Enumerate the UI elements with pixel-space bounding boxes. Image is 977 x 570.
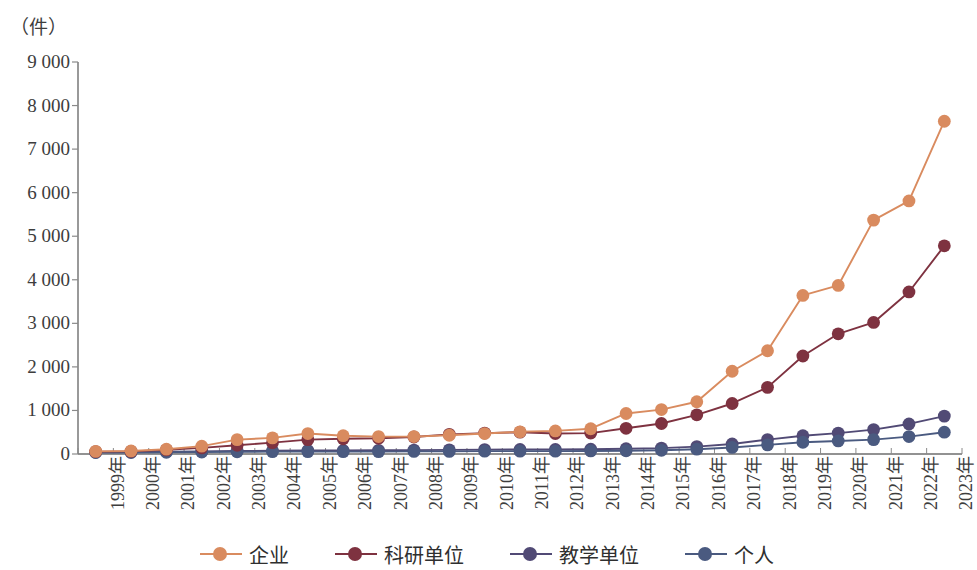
x-axis-tick-2017年: 2017年 xyxy=(739,456,765,510)
data-point xyxy=(867,316,880,329)
y-axis-tick-2000: 2 000 xyxy=(6,356,70,378)
data-point xyxy=(726,365,739,378)
y-axis-tick-6000: 6 000 xyxy=(6,182,70,204)
series-科研单位 xyxy=(89,239,950,458)
x-axis-tick-2005年: 2005年 xyxy=(315,456,341,510)
data-point xyxy=(903,195,916,208)
legend-item-科研单位[interactable]: 科研单位 xyxy=(335,540,464,569)
data-point xyxy=(514,425,527,438)
data-point xyxy=(620,407,633,420)
plot-svg xyxy=(78,62,962,454)
x-axis-tick-2016年: 2016年 xyxy=(704,456,730,510)
data-point xyxy=(796,289,809,302)
data-point xyxy=(903,286,916,299)
legend-marker-dot-icon xyxy=(213,547,227,561)
legend-swatch-icon xyxy=(200,546,242,562)
data-point xyxy=(160,443,173,456)
data-point xyxy=(690,443,703,456)
data-point xyxy=(443,429,456,442)
legend-label: 企业 xyxy=(249,540,289,569)
data-point xyxy=(761,344,774,357)
x-axis-tick-2022年: 2022年 xyxy=(916,456,942,510)
data-point xyxy=(478,427,491,440)
legend-swatch-icon xyxy=(685,546,727,562)
data-point xyxy=(726,441,739,454)
plot-area xyxy=(78,62,962,454)
legend-item-教学单位[interactable]: 教学单位 xyxy=(510,540,639,569)
data-point xyxy=(903,430,916,443)
x-axis-tick-2003年: 2003年 xyxy=(244,456,270,510)
x-axis-tick-labels: 1999年2000年2001年2002年2003年2004年2005年2006年… xyxy=(78,456,962,542)
x-axis-tick-2014年: 2014年 xyxy=(633,456,659,510)
legend-item-企业[interactable]: 企业 xyxy=(200,540,289,569)
y-axis-tick-0: 0 xyxy=(6,443,70,465)
data-point xyxy=(655,417,668,430)
series-企业 xyxy=(89,115,950,458)
x-axis-tick-2002年: 2002年 xyxy=(209,456,235,510)
legend-marker-dot-icon xyxy=(698,547,712,561)
legend-marker-dot-icon xyxy=(348,547,362,561)
data-point xyxy=(690,408,703,421)
y-axis-tick-1000: 1 000 xyxy=(6,399,70,421)
x-axis-tick-2008年: 2008年 xyxy=(421,456,447,510)
data-point xyxy=(231,433,244,446)
x-axis-tick-2012年: 2012年 xyxy=(562,456,588,510)
x-axis-tick-2021年: 2021年 xyxy=(881,456,907,510)
data-point xyxy=(195,440,208,453)
data-point xyxy=(938,410,951,423)
x-axis-tick-2000年: 2000年 xyxy=(138,456,164,510)
data-point xyxy=(301,427,314,440)
data-point xyxy=(584,422,597,435)
legend-label: 个人 xyxy=(734,540,774,569)
x-axis-tick-2018年: 2018年 xyxy=(775,456,801,510)
data-point xyxy=(655,444,668,457)
legend-label: 教学单位 xyxy=(559,540,639,569)
legend-swatch-icon xyxy=(335,546,377,562)
x-axis-tick-2020年: 2020年 xyxy=(845,456,871,510)
data-point xyxy=(761,438,774,451)
y-axis-tick-4000: 4 000 xyxy=(6,269,70,291)
data-point xyxy=(337,429,350,442)
series-line-企业 xyxy=(96,121,945,451)
x-axis-tick-2007年: 2007年 xyxy=(386,456,412,510)
data-point xyxy=(620,422,633,435)
x-axis-tick-2011年: 2011年 xyxy=(527,456,553,509)
chart-legend: 企业科研单位教学单位个人 xyxy=(0,538,974,570)
data-point xyxy=(832,435,845,448)
y-axis-tick-labels: 01 0002 0003 0004 0005 0006 0007 0008 00… xyxy=(0,62,70,454)
y-axis-tick-5000: 5 000 xyxy=(6,225,70,247)
series-line-科研单位 xyxy=(96,246,945,452)
data-point xyxy=(796,436,809,449)
x-axis-tick-2009年: 2009年 xyxy=(456,456,482,510)
x-axis-tick-2019年: 2019年 xyxy=(810,456,836,510)
data-point xyxy=(761,381,774,394)
data-point xyxy=(726,397,739,410)
data-point xyxy=(903,418,916,431)
data-point xyxy=(372,430,385,443)
data-point xyxy=(690,395,703,408)
x-axis-tick-2015年: 2015年 xyxy=(668,456,694,510)
data-point xyxy=(266,431,279,444)
x-axis-tick-2006年: 2006年 xyxy=(350,456,376,510)
legend-label: 科研单位 xyxy=(384,540,464,569)
data-point xyxy=(867,214,880,227)
data-point xyxy=(938,115,951,128)
data-point xyxy=(832,327,845,340)
data-point xyxy=(867,433,880,446)
legend-item-个人[interactable]: 个人 xyxy=(685,540,774,569)
legend-marker-dot-icon xyxy=(523,547,537,561)
legend-swatch-icon xyxy=(510,546,552,562)
y-axis-tick-7000: 7 000 xyxy=(6,138,70,160)
y-axis-tick-3000: 3 000 xyxy=(6,312,70,334)
y-axis-tick-8000: 8 000 xyxy=(6,95,70,117)
x-axis-tick-2004年: 2004年 xyxy=(279,456,305,510)
y-axis-unit-label: （件） xyxy=(10,12,67,39)
x-axis-tick-2001年: 2001年 xyxy=(173,456,199,510)
x-axis-tick-2010年: 2010年 xyxy=(492,456,518,510)
data-point xyxy=(832,279,845,292)
x-axis-tick-2013年: 2013年 xyxy=(598,456,624,510)
data-point xyxy=(938,426,951,439)
x-axis-tick-2023年: 2023年 xyxy=(951,456,977,510)
data-point xyxy=(796,350,809,363)
